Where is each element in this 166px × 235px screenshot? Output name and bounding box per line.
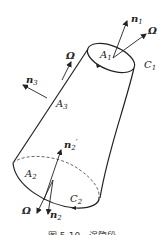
label-n2: n2 (50, 209, 62, 222)
label-n1: n1 (131, 13, 143, 26)
label-A1: A1 (99, 49, 112, 62)
label-A3: A3 (55, 98, 68, 111)
label-C2: C2 (70, 193, 83, 206)
tube-right-wall (100, 68, 134, 198)
c2-direction-arrow-icon (71, 206, 76, 210)
label-omega-top: Ω (147, 25, 157, 36)
label-n3: n3 (26, 74, 38, 87)
label-n2prime: n2′ (64, 137, 78, 152)
label-omega-side: Ω (65, 50, 75, 61)
label-A2: A2 (24, 168, 37, 181)
label-omega-bottom: Ω (21, 205, 31, 216)
vortex-tube-diagram: n1 Ω A1 C1 Ω n3 A3 n2′ A2 C2 Ω n2 图 5-10… (0, 0, 166, 235)
label-C1: C1 (144, 59, 156, 72)
figure-caption: 图 5-10 涡管段 (48, 230, 116, 235)
